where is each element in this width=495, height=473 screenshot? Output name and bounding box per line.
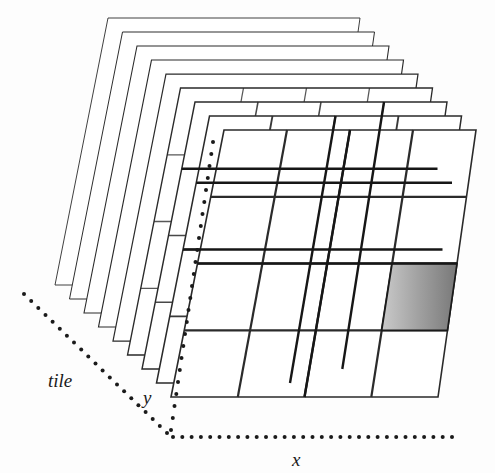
axis-dot: [171, 416, 175, 420]
axis-dot: [171, 435, 175, 439]
axis-dot: [450, 435, 454, 439]
axis-dot: [188, 296, 192, 300]
axis-label-x: x: [291, 449, 301, 470]
axis-dot: [36, 306, 40, 310]
axis-dot: [129, 396, 133, 400]
axis-label-y: y: [141, 387, 152, 408]
axis-dot: [245, 435, 249, 439]
axis-dot: [115, 382, 119, 386]
axis-dot: [376, 435, 380, 439]
axis-dot: [385, 435, 389, 439]
axis-dot: [208, 435, 212, 439]
axis-dot: [29, 299, 33, 303]
axis-dot: [173, 404, 177, 408]
axis-dot: [180, 435, 184, 439]
axis-dot: [208, 164, 212, 168]
axis-dot: [202, 200, 206, 204]
axis-dot: [101, 368, 105, 372]
axis-dot: [51, 320, 55, 324]
axis-dot: [165, 431, 169, 435]
axis-dot: [292, 435, 296, 439]
axis-dot: [273, 435, 277, 439]
axis-dot: [404, 435, 408, 439]
axis-dot: [195, 248, 199, 252]
axis-dot: [204, 188, 208, 192]
axis-dot: [86, 355, 90, 359]
axis-dot: [236, 435, 240, 439]
axis-dot: [174, 392, 178, 396]
axis-dot: [169, 428, 173, 432]
axis-dot: [178, 368, 182, 372]
axis-dot: [255, 435, 259, 439]
axis-dot: [209, 152, 213, 156]
axis-dot: [357, 435, 361, 439]
axis-dot: [283, 435, 287, 439]
axis-dot: [22, 292, 26, 296]
axis-dot: [180, 356, 184, 360]
axis-dot: [122, 389, 126, 393]
axis-dot: [227, 435, 231, 439]
axis-dot: [44, 313, 48, 317]
axis-dot: [151, 417, 155, 421]
axis-label-tile: tile: [48, 370, 72, 391]
axis-dot: [187, 308, 191, 312]
tile-lower-right: [382, 264, 457, 331]
axis-dot: [301, 435, 305, 439]
axis-dot: [158, 424, 162, 428]
axis-dot: [199, 224, 203, 228]
axis-dot: [320, 435, 324, 439]
axis-dot: [176, 380, 180, 384]
axis-dot: [94, 362, 98, 366]
axis-dot: [65, 334, 69, 338]
axis-dot: [192, 272, 196, 276]
axis-dot: [338, 435, 342, 439]
axis-dot: [72, 341, 76, 345]
axis-dot: [183, 332, 187, 336]
axis-dot: [431, 435, 435, 439]
axis-dot: [79, 348, 83, 352]
axis-dot: [311, 435, 315, 439]
tiled-array-diagram: tile y x: [0, 0, 495, 473]
axis-dot: [394, 435, 398, 439]
axis-dot: [329, 435, 333, 439]
axis-dot: [206, 176, 210, 180]
axis-dot: [201, 212, 205, 216]
plane-stack: [55, 18, 476, 397]
axis-dot: [413, 435, 417, 439]
axis-x: [171, 435, 454, 439]
axis-dot: [211, 140, 215, 144]
figure-container: tile y x: [0, 0, 495, 473]
axis-dot: [185, 320, 189, 324]
axis-dot: [264, 435, 268, 439]
axis-dot: [197, 236, 201, 240]
axis-dot: [348, 435, 352, 439]
axis-dot: [58, 327, 62, 331]
axis-dot: [181, 344, 185, 348]
axis-dot: [366, 435, 370, 439]
axis-dot: [108, 375, 112, 379]
axis-dot: [190, 284, 194, 288]
axis-dot: [190, 435, 194, 439]
axis-dot: [422, 435, 426, 439]
axis-dot: [218, 435, 222, 439]
axis-dot: [136, 403, 140, 407]
axis-dot: [194, 260, 198, 264]
axis-dot: [441, 435, 445, 439]
axis-dot: [199, 435, 203, 439]
axis-dot: [144, 410, 148, 414]
